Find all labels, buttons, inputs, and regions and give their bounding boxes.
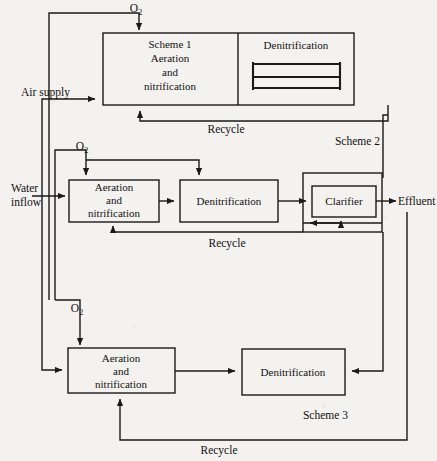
label-water-inflow-line2: inflow <box>11 196 42 208</box>
wire-scheme3-denitrification-feed <box>352 232 383 371</box>
label-o2-top: O2 <box>130 2 142 17</box>
scheme1-title: Scheme 1 <box>148 38 191 50</box>
scheme2-denitrification-label: Denitrification <box>197 195 262 207</box>
scheme3-aeration-line3: nitrification <box>95 378 147 390</box>
figure-canvas: O2 O2 O2 Air supply Water inflow Effluen… <box>0 0 437 461</box>
scheme2-aeration-line1: Aeration <box>95 181 134 193</box>
scheme1-reactor-line2: and <box>162 66 178 78</box>
scheme2-aeration-line3: nitrification <box>88 207 140 219</box>
label-water-inflow-line1: Water <box>11 182 38 194</box>
wire-o2-mid-branch-denitrification <box>86 160 199 175</box>
label-recycle-scheme1: Recycle <box>207 123 244 136</box>
scheme1-reactor-line3: nitrification <box>144 80 196 92</box>
scheme2-aeration-line2: and <box>106 194 122 206</box>
wire-scheme2-recycle <box>113 226 303 232</box>
label-effluent: Effluent <box>398 195 436 207</box>
wire-scheme3-inflow <box>42 196 62 370</box>
label-air-supply: Air supply <box>21 86 70 99</box>
wire-scheme3-recycle <box>120 212 407 440</box>
scheme3-denitrification-label: Denitrification <box>261 366 326 378</box>
label-scheme-2: Scheme 2 <box>335 135 380 147</box>
label-scheme-3: Scheme 3 <box>303 409 348 421</box>
label-o2-mid: O2 <box>76 140 88 155</box>
label-o2-bottom: O2 <box>71 302 83 317</box>
wire-scheme2-to-scheme1-riser <box>383 115 388 178</box>
scheme3-aeration-line1: Aeration <box>102 352 141 364</box>
label-recycle-scheme2: Recycle <box>208 237 245 250</box>
scheme1-denitrification-label: Denitrification <box>264 39 329 51</box>
scheme2-clarifier-label: Clarifier <box>325 195 363 207</box>
process-flow-diagram: O2 O2 O2 Air supply Water inflow Effluen… <box>0 0 437 461</box>
wire-scheme1-recycle <box>140 105 388 121</box>
label-recycle-scheme3: Recycle <box>200 444 237 457</box>
scheme3-aeration-line2: and <box>113 365 129 377</box>
wire-o2-mid-feed <box>55 150 86 300</box>
scheme1-reactor-line1: Aeration <box>151 52 190 64</box>
